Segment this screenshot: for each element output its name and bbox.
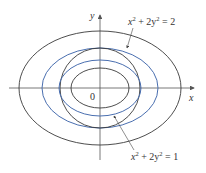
annotation-level-1: x2 + 2y2 = 1 <box>130 150 178 162</box>
level-curves-diagram: y x 0 x2 + 2y2 = 2 x2 + 2y2 = 1 <box>0 0 206 173</box>
origin-label: 0 <box>90 91 95 102</box>
y-axis-label: y <box>89 10 95 21</box>
annotation-level-2: x2 + 2y2 = 2 <box>127 15 175 27</box>
x-axis-label: x <box>188 92 194 103</box>
pointer-level-1 <box>114 116 134 150</box>
pointer-level-2 <box>127 28 133 48</box>
